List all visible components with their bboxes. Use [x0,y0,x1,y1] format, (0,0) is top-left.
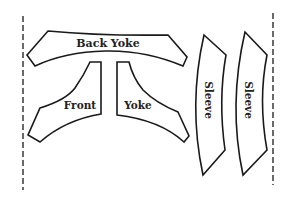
back-yoke-piece: Back Yoke [27,31,187,66]
pattern-diagram: Back Yoke Front Yoke Sleeve Sleeve [0,0,290,197]
front-yoke-right-label: Yoke [123,99,152,111]
front-yoke-right-piece: Yoke [117,62,189,142]
sleeve-2-label: Sleeve [243,81,255,119]
sleeve-1-piece: Sleeve [196,35,226,175]
back-yoke-label: Back Yoke [76,37,139,50]
sleeve-2-piece: Sleeve [236,32,267,175]
sleeve-1-label: Sleeve [203,81,215,119]
front-yoke-left-piece: Front [28,62,101,142]
front-yoke-left-label: Front [64,99,96,111]
